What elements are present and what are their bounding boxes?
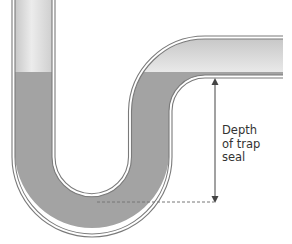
trap-diagram xyxy=(0,0,292,244)
depth-arrow xyxy=(212,78,219,203)
label-line-3: seal xyxy=(222,151,260,165)
label-line-2: of trap xyxy=(222,138,260,152)
arrow-up-icon xyxy=(212,78,219,85)
label-line-1: Depth xyxy=(222,124,260,138)
depth-of-trap-seal-label: Depth of trap seal xyxy=(222,124,260,165)
